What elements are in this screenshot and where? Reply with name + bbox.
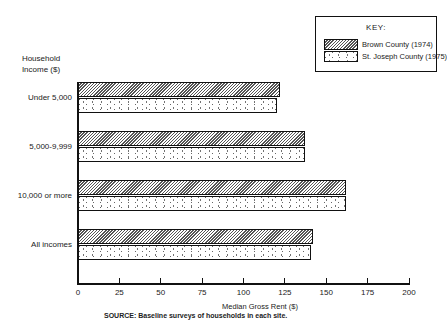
- x-tick: [78, 278, 79, 284]
- x-tick-label: 50: [146, 288, 176, 297]
- bar-brown: [78, 82, 280, 97]
- x-tick-label: 75: [187, 288, 217, 297]
- x-tick-label: 200: [394, 288, 424, 297]
- source-text: Baseline surveys of households in each s…: [138, 312, 287, 319]
- x-tick: [243, 278, 244, 284]
- y-axis-title: Household Income ($): [2, 53, 80, 75]
- category-label: All incomes: [0, 240, 72, 249]
- x-tick: [326, 278, 327, 284]
- category-label: 10,000 or more: [0, 191, 72, 200]
- bar-brown: [78, 229, 313, 244]
- x-tick-label: 25: [104, 288, 134, 297]
- legend-label-stjoseph: St. Joseph County (1975): [362, 52, 447, 61]
- x-tick-label: 150: [311, 288, 341, 297]
- legend: KEY: Brown County (1974) St. Joseph Coun…: [315, 16, 437, 72]
- x-tick: [409, 278, 410, 284]
- y-axis-title-line1: Household: [2, 53, 80, 64]
- legend-title: KEY:: [316, 23, 436, 32]
- x-tick: [284, 278, 285, 284]
- y-axis: [77, 82, 79, 284]
- x-tick-label: 175: [353, 288, 383, 297]
- bar-stjoseph: [78, 245, 311, 260]
- legend-swatch-dotted: [324, 51, 358, 62]
- source-prefix: SOURCE:: [104, 312, 136, 319]
- x-tick: [160, 278, 161, 284]
- legend-label-brown: Brown County (1974): [362, 40, 433, 49]
- x-tick: [367, 278, 368, 284]
- x-tick: [202, 278, 203, 284]
- y-axis-title-line2: Income ($): [2, 64, 80, 75]
- x-tick-label: 125: [270, 288, 300, 297]
- category-label: Under 5,000: [0, 93, 72, 102]
- bar-brown: [78, 131, 305, 146]
- bar-stjoseph: [78, 98, 277, 113]
- x-axis-title: Median Gross Rent ($): [190, 302, 330, 311]
- x-tick-label: 0: [63, 288, 93, 297]
- x-tick-label: 100: [229, 288, 259, 297]
- bar-stjoseph: [78, 147, 305, 162]
- source-note: SOURCE: Baseline surveys of households i…: [104, 312, 287, 319]
- legend-swatch-hatched: [324, 39, 358, 50]
- x-tick: [119, 278, 120, 284]
- category-label: 5,000-9,999: [0, 142, 72, 151]
- bar-stjoseph: [78, 196, 346, 211]
- bar-brown: [78, 180, 346, 195]
